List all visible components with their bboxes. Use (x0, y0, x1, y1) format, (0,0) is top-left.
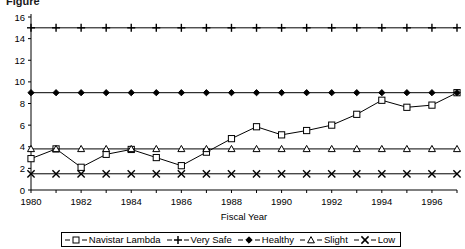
marker-diamond (153, 90, 159, 96)
marker-square (78, 164, 84, 170)
marker-diamond (278, 90, 284, 96)
marker-diamond (354, 90, 360, 96)
y-tick-label: 10 (14, 76, 25, 87)
chart-figure: Figure 024681012141619801982198419861988… (0, 0, 465, 249)
marker-diamond (404, 90, 410, 96)
x-tick-label: 1982 (71, 196, 92, 207)
x-tick-label: 1990 (271, 196, 292, 207)
x-tick-label: 1994 (371, 196, 392, 207)
legend-marker-diamond-icon (238, 235, 260, 245)
x-tick-label: 1996 (421, 196, 442, 207)
plot-area: 0246810121416198019821984198619881990199… (0, 0, 465, 232)
legend-label: Navistar Lambda (89, 234, 161, 245)
y-tick-label: 8 (20, 98, 25, 109)
x-tick-label: 1992 (321, 196, 342, 207)
series-slight (28, 145, 461, 151)
marker-diamond (28, 90, 34, 96)
marker-square (103, 151, 109, 157)
legend-entry: Slight (298, 234, 352, 245)
marker-diamond (103, 90, 109, 96)
marker-diamond (304, 90, 310, 96)
marker-diamond (429, 90, 435, 96)
marker-square (429, 102, 435, 108)
y-tick-label: 14 (14, 33, 25, 44)
series-line (31, 93, 457, 168)
legend-marker-x-icon (354, 235, 376, 245)
legend-marker-square-icon (65, 235, 87, 245)
legend-entry: Healthy (236, 234, 298, 245)
legend-marker-plus-icon (167, 235, 189, 245)
legend-label: Low (378, 234, 395, 245)
marker-square (379, 97, 385, 103)
marker-diamond (379, 90, 385, 96)
x-tick-label: 1988 (221, 196, 242, 207)
marker-square (228, 136, 234, 142)
legend-label: Slight (324, 234, 348, 245)
marker-diamond (78, 90, 84, 96)
marker-square (354, 111, 360, 117)
legend-marker-triangle-icon (300, 235, 322, 245)
legend-label: Healthy (262, 234, 294, 245)
y-tick-label: 0 (20, 185, 25, 196)
legend-label: Very Safe (191, 234, 232, 245)
marker-square (304, 127, 310, 133)
marker-diamond (329, 90, 335, 96)
marker-square (178, 163, 184, 169)
series-low (27, 170, 460, 177)
marker-diamond (228, 90, 234, 96)
marker-diamond (53, 90, 59, 96)
y-tick-label: 2 (20, 163, 25, 174)
y-tick-label: 4 (20, 141, 25, 152)
marker-diamond (203, 90, 209, 96)
y-tick-label: 12 (14, 55, 25, 66)
legend-entry: Very Safe (165, 234, 236, 245)
marker-square (329, 122, 335, 128)
marker-square (253, 124, 259, 130)
marker-diamond (128, 90, 134, 96)
marker-square (153, 154, 159, 160)
legend-entry: Low (352, 234, 399, 245)
y-tick-label: 6 (20, 120, 25, 131)
marker-square (278, 132, 284, 138)
legend-entry: Navistar Lambda (63, 234, 165, 245)
marker-square (404, 104, 410, 110)
marker-diamond (253, 90, 259, 96)
x-axis-title: Fiscal Year (221, 211, 267, 222)
marker-square (28, 156, 34, 162)
x-tick-label: 1980 (20, 196, 41, 207)
series-very-safe (27, 24, 461, 32)
chart-legend: Navistar LambdaVery SafeHealthySlightLow (61, 232, 401, 247)
marker-diamond (178, 90, 184, 96)
x-tick-label: 1986 (171, 196, 192, 207)
y-tick-label: 16 (14, 12, 25, 23)
x-tick-label: 1984 (121, 196, 142, 207)
series-navistar-lambda (28, 90, 460, 171)
series-healthy (28, 90, 460, 96)
